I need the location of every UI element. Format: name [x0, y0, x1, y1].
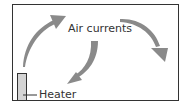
air-current-arrow-up-icon: [23, 15, 66, 67]
heater-label: Heater: [39, 88, 76, 101]
heater: [18, 74, 27, 101]
diagram-canvas: [0, 0, 188, 112]
air-current-arrow-down-icon: [67, 41, 98, 84]
air-currents-label: Air currents: [68, 22, 132, 35]
